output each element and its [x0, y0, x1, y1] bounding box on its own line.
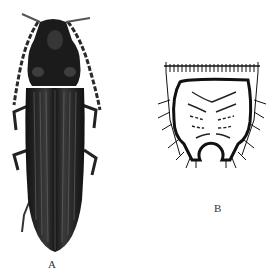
panel-a-beetle-photo: [0, 0, 120, 262]
panel-b-label: B: [214, 202, 221, 214]
beetle-illustration: [0, 0, 120, 262]
panel-b-larval-segment-drawing: [150, 60, 270, 170]
larval-segment-illustration: [150, 60, 270, 170]
panel-a-label: A: [48, 258, 56, 270]
